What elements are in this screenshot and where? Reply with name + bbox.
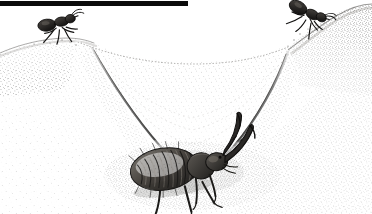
antlion-pit-figure: Antlion larva in sand pit trap with ants	[0, 0, 372, 214]
illustration-canvas	[0, 0, 372, 214]
top-black-rule	[0, 1, 188, 6]
